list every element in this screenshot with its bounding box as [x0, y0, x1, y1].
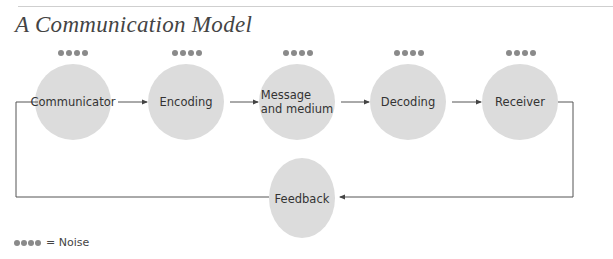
node-communicator: Communicator	[31, 95, 116, 109]
node-decoding: Decoding	[381, 95, 435, 109]
noise-dots	[58, 50, 536, 56]
node-message-medium: Message and medium	[261, 88, 334, 116]
diagram-canvas	[0, 0, 613, 259]
legend-label: = Noise	[46, 236, 89, 249]
noise-legend-dots	[14, 236, 42, 249]
node-encoding: Encoding	[160, 95, 213, 109]
node-receiver: Receiver	[495, 95, 545, 109]
legend: = Noise	[14, 236, 89, 249]
node-feedback: Feedback	[275, 192, 330, 206]
